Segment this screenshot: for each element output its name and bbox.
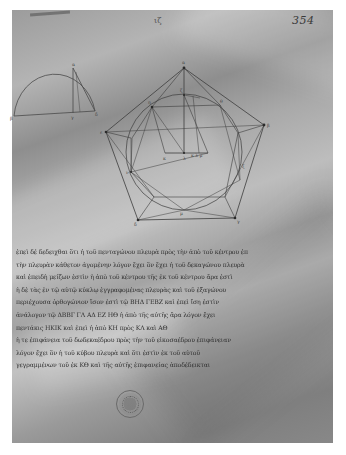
svg-text:μ: μ bbox=[180, 211, 183, 216]
svg-text:α: α bbox=[72, 62, 75, 67]
svg-text:γ: γ bbox=[237, 219, 240, 224]
semicircle-figure bbox=[14, 68, 95, 116]
text-line: τὴν πλευρὰν κάθετον ἀγομένην λόγον ἔχει … bbox=[16, 259, 248, 272]
text-line: καὶ ἐπειδὴ μείζων ἐστὶν ἡ ἀπὸ τοῦ κέντρο… bbox=[16, 271, 248, 284]
svg-text:η: η bbox=[148, 100, 151, 105]
svg-text:γ: γ bbox=[71, 115, 74, 120]
svg-text:κ: κ bbox=[163, 156, 166, 161]
text-line: ἡ δὲ τὰς ἐν τῷ αὐτῷ κύκλῳ ἐγγραφομένας π… bbox=[16, 284, 248, 297]
text-line: λόγον ἔχει ὃν ἡ τοῦ κύβου πλευρὰ καὶ ὅτι… bbox=[16, 347, 248, 360]
svg-text:β: β bbox=[10, 116, 13, 121]
svg-text:δ: δ bbox=[134, 222, 137, 227]
text-line: γεγραμμένων τοῦ ἐκ ΚΘ καὶ τῆς αὐτῆς ἐπιφ… bbox=[16, 359, 248, 372]
text-line: πεντάκις ΗΚΙΚ καὶ ἐπεὶ ἡ ἀπὸ ΚΗ πρὸς ΚΛ … bbox=[16, 322, 248, 335]
pentagon-figure bbox=[106, 68, 264, 220]
library-stamp bbox=[116, 390, 144, 418]
geometric-diagrams: α β γ δ ε ζ η θ κ λ κ λ μ μ ν ξ α β γ δ bbox=[0, 0, 346, 455]
manuscript-text: ἐπεὶ δέ δεδειχθαι ὅτι ἡ τοῦ πενταγώνου π… bbox=[16, 246, 248, 372]
svg-text:ε: ε bbox=[100, 130, 103, 135]
quire-mark: ιζ bbox=[154, 17, 161, 24]
svg-text:β: β bbox=[267, 123, 270, 128]
text-line: ἀνάλογον τῷ ΔΒΒΓ ΓΛ ΑΔ ΕΖ ΗΘ ἡ ἀπὸ τῆς α… bbox=[16, 309, 248, 322]
svg-text:δ: δ bbox=[95, 112, 98, 117]
svg-text:θ: θ bbox=[220, 99, 223, 104]
text-line: ἡ τε ἐπιφάνεια τοῦ δωδεκαέδρου πρὸς τὴν … bbox=[16, 334, 248, 347]
folio-number: 354 bbox=[292, 14, 315, 27]
svg-text:α: α bbox=[182, 60, 185, 65]
svg-text:κ λ μ: κ λ μ bbox=[191, 153, 203, 158]
stamp-inner-ring bbox=[122, 396, 139, 413]
text-line: περιέχουσα ὀρθογώνιον ἴσον ἐστὶ τῷ ΒΗΔ Γ… bbox=[16, 296, 248, 309]
text-line: ἐπεὶ δέ δεδειχθαι ὅτι ἡ τοῦ πενταγώνου π… bbox=[16, 246, 248, 259]
svg-text:ζ: ζ bbox=[180, 88, 183, 93]
svg-text:ν: ν bbox=[126, 170, 129, 175]
svg-text:ξ: ξ bbox=[242, 164, 245, 169]
svg-text:λ: λ bbox=[183, 156, 186, 161]
